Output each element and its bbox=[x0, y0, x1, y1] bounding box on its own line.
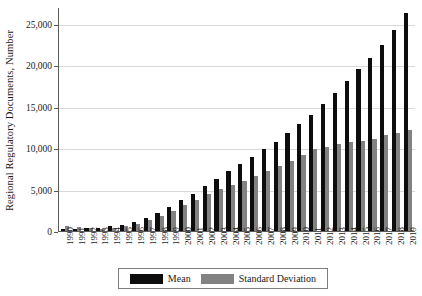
legend-item-mean: Mean bbox=[130, 273, 191, 284]
x-axis-tick-label-cell: 2005 bbox=[236, 234, 248, 268]
x-axis-tick-label-cell: 2003 bbox=[213, 234, 225, 268]
y-axis-title-label: Regional Regulatory Documents, Number bbox=[4, 30, 15, 211]
x-axis-tick-labels: 1990199119921993199419951996199719981999… bbox=[58, 234, 415, 268]
chart-figure: Regional Regulatory Documents, Number 05… bbox=[0, 0, 422, 296]
x-axis-tick-label-cell: 2019 bbox=[402, 234, 414, 268]
y-axis-tick-mark bbox=[54, 232, 58, 233]
legend-swatch-standard-deviation-icon bbox=[201, 274, 234, 284]
x-axis-tick-label-cell: 2006 bbox=[248, 234, 260, 268]
x-axis-tick-label-cell: 2014 bbox=[343, 234, 355, 268]
x-axis-tick-label: 2019 bbox=[408, 227, 418, 245]
x-axis-tick-label-cell: 1990 bbox=[59, 234, 71, 268]
legend-label-standard-deviation: Standard Deviation bbox=[239, 273, 316, 284]
x-axis-tick-label-cell: 2013 bbox=[331, 234, 343, 268]
plot-frame bbox=[58, 8, 415, 232]
x-axis-tick-label-cell: 2004 bbox=[225, 234, 237, 268]
legend-swatch-mean-icon bbox=[130, 274, 163, 284]
x-axis-tick-label-cell: 2017 bbox=[378, 234, 390, 268]
y-axis-tick-label: 10,000 bbox=[26, 144, 52, 154]
y-axis-tick-label: 25,000 bbox=[26, 20, 52, 30]
x-axis-tick-label-cell: 1992 bbox=[83, 234, 95, 268]
x-axis-tick-label-cell: 1993 bbox=[94, 234, 106, 268]
y-axis-tick-label: 0 bbox=[47, 227, 52, 237]
x-axis-tick-label-cell: 2011 bbox=[307, 234, 319, 268]
x-axis-tick-label-cell: 2002 bbox=[201, 234, 213, 268]
x-axis-tick-label-cell: 2001 bbox=[189, 234, 201, 268]
chart-legend: Mean Standard Deviation bbox=[118, 268, 328, 289]
x-axis-tick-label-cell: 2007 bbox=[260, 234, 272, 268]
x-axis-tick-label-cell: 2000 bbox=[177, 234, 189, 268]
y-axis-title: Regional Regulatory Documents, Number bbox=[0, 0, 18, 240]
x-axis-tick-label-cell: 1995 bbox=[118, 234, 130, 268]
x-axis-tick-label-cell: 1999 bbox=[165, 234, 177, 268]
x-axis-tick-label-cell: 2018 bbox=[390, 234, 402, 268]
plot-area: 05,00010,00015,00020,00025,000 bbox=[58, 8, 415, 232]
x-axis-tick-label-cell: 1994 bbox=[106, 234, 118, 268]
x-axis-tick-label-cell: 2012 bbox=[319, 234, 331, 268]
legend-label-mean: Mean bbox=[168, 273, 191, 284]
x-axis-tick-label-cell: 1996 bbox=[130, 234, 142, 268]
x-axis-tick-label-cell: 1991 bbox=[71, 234, 83, 268]
x-axis-tick-label-cell: 2010 bbox=[296, 234, 308, 268]
x-axis-tick-label-cell: 2016 bbox=[367, 234, 379, 268]
x-axis-tick-label-cell: 1997 bbox=[142, 234, 154, 268]
y-axis-tick-label: 15,000 bbox=[26, 103, 52, 113]
legend-item-standard-deviation: Standard Deviation bbox=[201, 273, 316, 284]
x-axis-tick-label-cell: 2008 bbox=[272, 234, 284, 268]
x-axis-tick-label-cell: 2015 bbox=[355, 234, 367, 268]
x-axis-tick-label-cell: 1998 bbox=[154, 234, 166, 268]
y-axis-tick-label: 5,000 bbox=[31, 186, 52, 196]
y-axis-tick-label: 20,000 bbox=[26, 61, 52, 71]
x-axis-tick-label-cell: 2009 bbox=[284, 234, 296, 268]
